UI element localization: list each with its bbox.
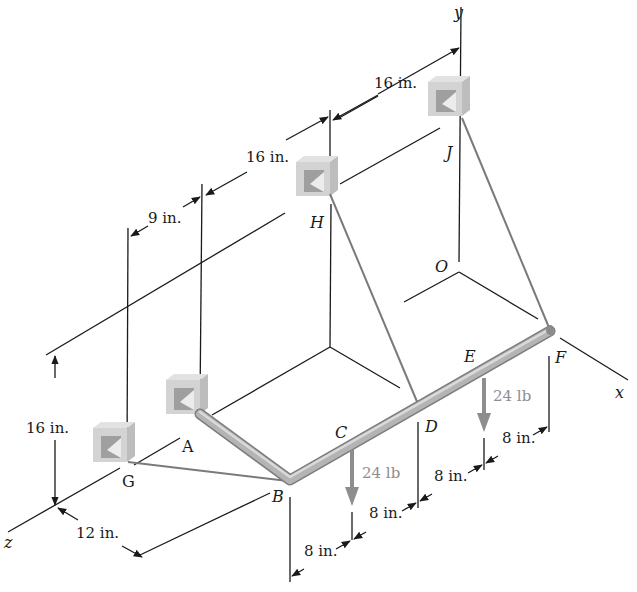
vertical-H (330, 204, 331, 347)
load-2-label: 24 lb (493, 387, 531, 405)
bracket-G (93, 422, 135, 462)
wall-base-GA (134, 438, 180, 465)
floor-line-A (212, 347, 330, 415)
origin-label-O: O (435, 257, 448, 276)
label-G: G (122, 472, 135, 491)
y-axis-label: y (453, 3, 464, 22)
top-dimensions: 16 in. 16 in. 9 in. (131, 48, 459, 236)
x-axis-label: x (615, 383, 624, 402)
x-axis-outer (560, 338, 628, 380)
bracket-J (428, 76, 470, 116)
dim-top-AG: 9 in. (148, 209, 182, 227)
depth-line-B (140, 493, 270, 555)
label-A: A (181, 437, 194, 456)
label-F: F (554, 348, 567, 367)
z-axis-inner (404, 272, 459, 302)
dim-depth: 12 in. (76, 524, 119, 542)
statics-diagram: y x z A O 24 lb (0, 0, 637, 592)
bracket-H (296, 156, 338, 196)
wall-construction-lines (46, 110, 440, 555)
load-2: 24 lb (477, 378, 531, 432)
dim-top-JH: 16 in. (374, 74, 417, 92)
dim-bottom-4: 8 in. (502, 429, 536, 447)
dim-bottom-2: 8 in. (369, 504, 403, 522)
label-H: H (309, 213, 325, 232)
x-axis-inner (459, 272, 538, 319)
label-E: E (463, 347, 476, 366)
top-rail-HJ (340, 128, 440, 184)
top-rail-front (46, 213, 285, 355)
cable-JF (462, 118, 550, 330)
floor-line-H (330, 347, 400, 388)
label-C: C (335, 423, 347, 442)
dim-bottom-1: 8 in. (304, 542, 338, 560)
bracket-A (166, 374, 208, 414)
depth-dimension: 12 in. (58, 508, 142, 557)
dim-height: 16 in. (26, 419, 69, 437)
y-axis (459, 7, 461, 262)
vertical-G (127, 228, 128, 455)
dim-top-HA: 16 in. (246, 148, 289, 166)
height-dimension: 16 in. (26, 356, 69, 505)
z-axis-outer (8, 468, 120, 532)
load-1-label: 24 lb (362, 464, 400, 482)
vertical-A (200, 184, 202, 404)
dim-bottom-3: 8 in. (434, 467, 468, 485)
z-axis-label: z (3, 533, 13, 552)
label-J: J (443, 143, 454, 162)
label-B: B (271, 487, 284, 506)
label-D: D (424, 417, 438, 436)
load-1: 24 lb (345, 450, 400, 506)
